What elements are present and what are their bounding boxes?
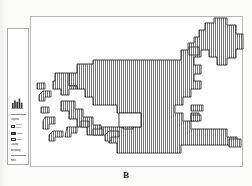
legend-swatch-label-2: Other: [17, 139, 23, 141]
legend-swatch-row-hatched[interactable]: Study area: [11, 124, 26, 129]
legend-swatch-row-open[interactable]: Other: [11, 138, 26, 141]
figure-panel-label: B: [0, 170, 252, 180]
interior-enclave: [119, 113, 141, 127]
figure-root: Legend Study area Urban Other County bou…: [0, 0, 252, 186]
hatch-swatch-icon: [11, 125, 15, 128]
study-area-map[interactable]: [31, 17, 244, 168]
legend-swatch-label-1: Urban: [17, 133, 24, 135]
plot-frame: [30, 16, 243, 167]
map-legend-box[interactable]: Legend Study area Urban Other County bou…: [7, 28, 29, 165]
legend-divider: [11, 114, 26, 115]
east-notch-2: [191, 115, 201, 121]
island-5: [65, 127, 77, 137]
island-1: [39, 91, 51, 101]
legend-scale-note: miles: [11, 159, 26, 162]
island-3: [43, 117, 55, 129]
north-notch: [189, 47, 199, 55]
island-2: [41, 107, 49, 113]
legend-text-line-2: boundary: [11, 149, 26, 152]
legend-content: Legend Study area Urban Other County bou…: [8, 97, 28, 162]
legend-bar-chart-icon: [10, 97, 26, 109]
legend-swatch-label-0: Study area: [16, 124, 26, 129]
island-4: [49, 131, 63, 141]
east-notch-1: [191, 105, 203, 111]
island-10: [37, 83, 45, 89]
legend-swatch-row-solid[interactable]: Urban: [11, 132, 26, 135]
island-7: [93, 129, 103, 135]
scan-margin: [0, 0, 6, 186]
study-area-polygon[interactable]: [53, 18, 243, 153]
island-6: [81, 121, 89, 127]
legend-text-line-0: Legend: [11, 118, 26, 121]
southeast-tail: [229, 139, 241, 147]
open-swatch-icon: [11, 138, 16, 141]
legend-text-line-1: County: [11, 143, 26, 146]
solid-swatch-icon: [11, 132, 16, 135]
legend-divider-lower: [11, 155, 26, 156]
